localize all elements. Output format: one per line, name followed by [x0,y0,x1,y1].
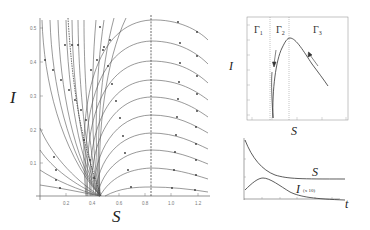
trajectories-left [40,18,126,196]
series-S-curve [245,140,345,179]
phase-portrait-panel: 0.1 0.2 0.3 0.4 0.5 0.2 0.4 0.6 0.8 1.0 … [9,15,210,226]
main-x-tick-1.0: 1.0 [168,201,175,206]
main-x-tick-0.8: 0.8 [142,201,149,206]
trajectories-right [84,20,208,196]
main-x-label: S [112,207,121,226]
series-I-scale-label: (x 10) [303,188,315,193]
series-S-label: S [312,165,318,179]
main-x-tick-1.2: 1.2 [195,201,202,206]
tr-left-ticks [247,25,250,115]
region-gamma-3: Γ3 [313,24,322,36]
tr-x-label: S [291,124,297,138]
br-x-label: t [345,197,349,211]
orbit-arrows [273,50,319,67]
orbit-regions-panel: Γ1 Γ2 Γ3 I S [228,17,348,138]
main-y-tick-0.2: 0.2 [30,128,37,133]
main-y-ticks [40,28,43,163]
series-I-label: I [295,182,301,196]
orbit-curve-left-branch [272,72,273,118]
tr-x-ticks [252,117,346,120]
main-x-tick-0.2: 0.2 [63,201,70,206]
main-y-tick-0.3: 0.3 [30,94,37,99]
main-y-tick-0.5: 0.5 [30,26,37,31]
series-I-curve [245,178,345,200]
region-gamma-1: Γ1 [254,24,263,36]
orbit-curve [273,38,328,118]
main-y-tick-0.1: 0.1 [30,161,37,166]
main-y-label: I [9,88,17,107]
figure: 0.1 0.2 0.3 0.4 0.5 0.2 0.4 0.6 0.8 1.0 … [0,0,370,230]
region-gamma-2: Γ2 [276,24,285,36]
main-y-tick-0.4: 0.4 [30,60,37,65]
main-x-tick-0.6: 0.6 [116,201,123,206]
main-x-tick-0.4: 0.4 [89,201,96,206]
time-series-panel: S I (x 10) t [244,138,349,211]
tr-y-label: I [228,59,234,73]
